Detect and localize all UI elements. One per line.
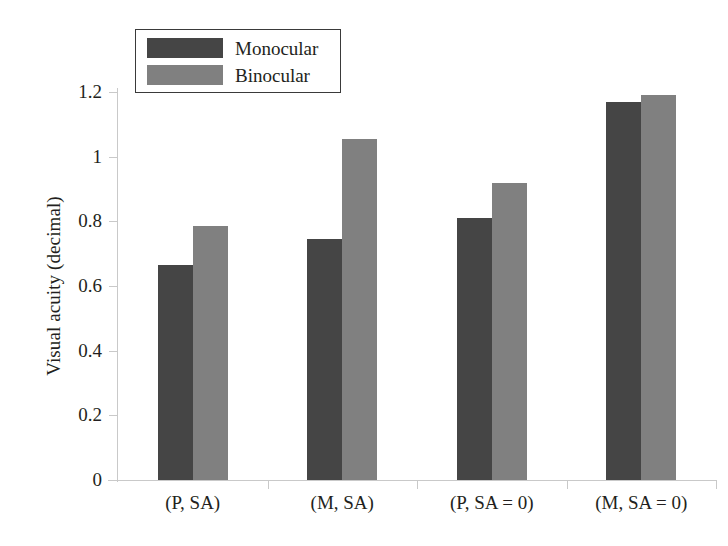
legend-label-monocular: Monocular bbox=[235, 39, 318, 58]
y-tick-mark bbox=[109, 221, 118, 222]
y-tick-mark bbox=[109, 286, 118, 287]
y-tick-label: 0.4 bbox=[40, 341, 102, 360]
y-tick-label: 0.6 bbox=[40, 276, 102, 295]
x-axis-separator bbox=[716, 480, 717, 489]
bar-binocular-2 bbox=[492, 183, 527, 480]
y-tick-mark bbox=[109, 351, 118, 352]
x-axis-separator bbox=[417, 480, 418, 489]
bar-monocular-3 bbox=[606, 102, 641, 480]
plot-area bbox=[118, 92, 716, 480]
legend-label-binocular: Binocular bbox=[235, 66, 310, 85]
y-tick-label: 0 bbox=[40, 470, 102, 489]
y-tick-label: 0.8 bbox=[40, 211, 102, 230]
y-tick-label: 1.2 bbox=[40, 82, 102, 101]
x-axis-separator bbox=[567, 480, 568, 489]
bar-monocular-0 bbox=[158, 265, 193, 480]
legend-swatch-monocular bbox=[147, 38, 223, 58]
x-axis-label: (M, SA) bbox=[268, 492, 418, 514]
bar-monocular-1 bbox=[307, 239, 342, 480]
x-axis-line bbox=[108, 480, 716, 481]
bar-binocular-1 bbox=[342, 139, 377, 480]
legend: Monocular Binocular bbox=[135, 29, 341, 93]
x-axis-separator bbox=[268, 480, 269, 489]
legend-swatch-binocular bbox=[147, 65, 223, 85]
y-tick-mark bbox=[109, 92, 118, 93]
y-tick-mark bbox=[109, 480, 118, 481]
legend-item-monocular: Monocular bbox=[147, 36, 318, 60]
bar-binocular-3 bbox=[641, 95, 676, 480]
x-axis-label: (M, SA = 0) bbox=[567, 492, 717, 514]
bar-binocular-0 bbox=[193, 226, 228, 480]
y-tick-mark bbox=[109, 157, 118, 158]
y-tick-mark bbox=[109, 415, 118, 416]
bar-chart: Visual acuity (decimal) 00.20.40.60.811.… bbox=[0, 0, 728, 546]
y-tick-label: 1 bbox=[40, 147, 102, 166]
legend-item-binocular: Binocular bbox=[147, 63, 310, 87]
bar-monocular-2 bbox=[457, 218, 492, 480]
x-axis-label: (P, SA) bbox=[118, 492, 268, 514]
y-tick-label: 0.2 bbox=[40, 405, 102, 424]
x-axis-label: (P, SA = 0) bbox=[417, 492, 567, 514]
